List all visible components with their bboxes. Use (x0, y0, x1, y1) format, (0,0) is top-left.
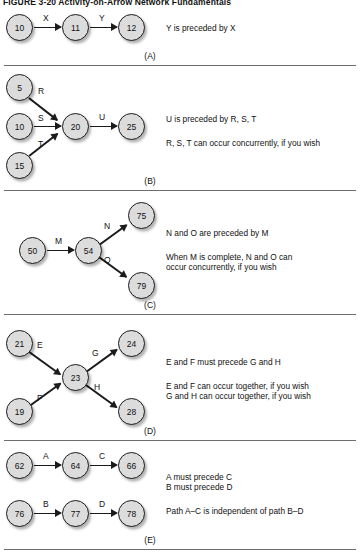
panel-b-note-2: R, S, T can occur concurrently, if you w… (166, 138, 320, 149)
edge-label-u: U (99, 112, 105, 122)
edge-x (34, 27, 61, 29)
node-25: 25 (118, 113, 145, 140)
node-66: 66 (118, 452, 145, 479)
edge-label-a: A (43, 451, 49, 461)
panel-a-note-1: Y is preceded by X (166, 23, 236, 34)
node-62: 62 (6, 452, 33, 479)
panel-e-divider (4, 549, 356, 550)
edge-d (90, 513, 117, 515)
panel-a: 10 11 12 X Y Y is preceded by X (A) (0, 0, 360, 68)
panel-c-letter: (C) (130, 300, 170, 310)
panel-d-note-2: E and F can occur together, if you wish (166, 381, 309, 392)
panel-d-note-1: E and F must precede G and H (166, 357, 281, 368)
edge-g (86, 349, 118, 373)
edge-s (34, 126, 61, 128)
node-12: 12 (118, 14, 145, 41)
edge-h (86, 384, 118, 408)
edge-a (34, 465, 61, 467)
node-76: 76 (6, 500, 33, 527)
panel-c-note-3: occur concurrently, if you wish (166, 262, 277, 273)
node-79: 79 (128, 272, 155, 299)
node-28: 28 (118, 398, 145, 425)
edge-label-b: B (43, 499, 49, 509)
edge-c (90, 465, 117, 467)
edge-label-e: E (37, 340, 43, 350)
edge-m (47, 250, 74, 252)
node-20: 20 (62, 113, 89, 140)
panel-d-letter: (D) (130, 426, 170, 436)
edge-u (90, 126, 117, 128)
edge-n (99, 224, 127, 245)
node-10-b: 10 (6, 113, 33, 140)
panel-e-note-1: A must precede C (166, 472, 232, 483)
panel-d: 21 19 23 24 28 E F G H E and F must prec… (0, 314, 360, 442)
panel-e-note-2: B must precede D (166, 482, 232, 493)
edge-label-f: F (37, 393, 42, 403)
edge-e (28, 350, 61, 375)
node-5: 5 (6, 74, 33, 101)
edge-y (90, 27, 117, 29)
edge-label-m: M (55, 236, 62, 246)
panel-c-note-2: When M is complete, N and O can (166, 252, 292, 263)
node-15: 15 (6, 152, 33, 179)
node-23: 23 (62, 364, 89, 391)
edge-b (34, 513, 61, 515)
node-10: 10 (6, 14, 33, 41)
node-75: 75 (128, 202, 155, 229)
edge-label-r: R (38, 86, 44, 96)
node-78: 78 (118, 500, 145, 527)
edge-label-n: N (104, 221, 110, 231)
edge-label-y: Y (99, 13, 105, 23)
edge-label-h: H (94, 382, 100, 392)
node-11: 11 (62, 14, 89, 41)
node-21: 21 (6, 330, 33, 357)
node-24: 24 (118, 330, 145, 357)
edge-label-o: O (104, 255, 111, 265)
node-50: 50 (19, 237, 46, 264)
panel-e: 62 64 66 76 77 78 A C B D A must precede… (0, 440, 360, 558)
panel-c: 50 54 75 79 M N O N and O are preceded b… (0, 190, 360, 314)
node-64: 64 (62, 452, 89, 479)
edge-label-s: S (38, 113, 44, 123)
edge-o (99, 256, 127, 277)
panel-b: 5 10 15 20 25 R S T U U is preceded by R… (0, 66, 360, 190)
node-54: 54 (75, 237, 102, 264)
edge-label-g: G (92, 348, 99, 358)
panel-e-note-3: Path A–C is independent of path B–D (166, 506, 303, 517)
panel-e-letter: (E) (130, 535, 170, 545)
panel-d-note-3: G and H can occur together, if you wish (166, 391, 311, 402)
panel-c-note-1: N and O are preceded by M (166, 228, 268, 239)
node-77: 77 (62, 500, 89, 527)
node-19: 19 (6, 398, 33, 425)
edge-label-t: T (38, 139, 43, 149)
edge-label-c: C (99, 451, 105, 461)
panel-b-note-1: U is preceded by R, S, T (166, 114, 256, 125)
panel-a-letter: (A) (130, 51, 170, 61)
edge-f (28, 383, 61, 408)
panel-b-letter: (B) (130, 176, 170, 186)
edge-label-x: X (43, 13, 49, 23)
edge-label-d: D (99, 499, 105, 509)
